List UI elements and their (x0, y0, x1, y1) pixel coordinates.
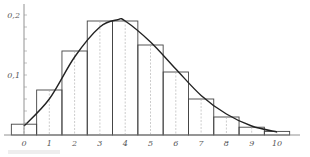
y-axis-labels: 0,10,2 (7, 11, 20, 80)
x-tick-label: 1 (47, 139, 52, 148)
x-tick-label: 3 (97, 139, 102, 148)
y-axis-ticks (24, 15, 27, 123)
x-tick-label: 5 (148, 139, 153, 148)
x-tick-label: 10 (272, 139, 282, 148)
y-tick-label: 0,2 (7, 11, 20, 20)
x-tick-label: 4 (122, 139, 128, 148)
x-tick-label: 2 (71, 139, 77, 148)
x-axis-labels: 012345678910 (21, 139, 282, 148)
x-tick-label: 0 (21, 139, 26, 148)
x-tick-label: 8 (224, 139, 229, 148)
histogram-chart: 012345678910 0,10,2 (0, 0, 310, 157)
x-tick-label: 6 (173, 139, 178, 148)
x-tick-label: 7 (199, 139, 205, 148)
x-tick-label: 9 (249, 139, 254, 148)
y-tick-label: 0,1 (7, 71, 20, 80)
histogram-bar (138, 45, 163, 135)
figure-caption-fragment (8, 150, 60, 154)
